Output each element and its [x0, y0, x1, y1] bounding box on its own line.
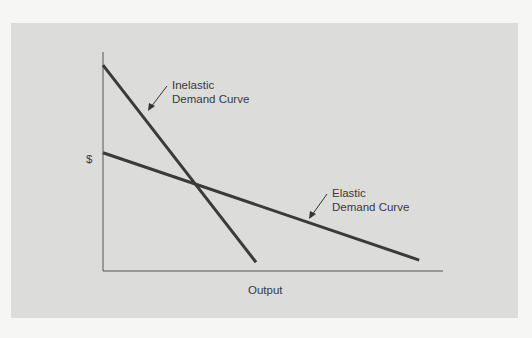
elastic-label: Elastic Demand Curve — [332, 186, 409, 214]
elastic-arrow-icon — [309, 194, 327, 219]
inelastic-label-line1: Inelastic — [172, 78, 249, 92]
y-axis-label: $ — [86, 152, 92, 166]
elastic-label-line2: Demand Curve — [332, 200, 409, 214]
elastic-label-line1: Elastic — [332, 186, 409, 200]
inelastic-label-line2: Demand Curve — [172, 92, 249, 106]
inelastic-label: Inelastic Demand Curve — [172, 78, 249, 106]
inelastic-arrow-icon — [148, 86, 167, 111]
x-axis-label: Output — [248, 283, 283, 297]
